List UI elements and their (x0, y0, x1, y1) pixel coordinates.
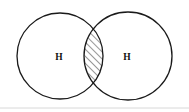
left-set-label: H (55, 52, 63, 62)
venn-diagram-figure: H H (0, 0, 189, 112)
right-set-label: H (123, 52, 131, 62)
venn-diagram-canvas: H H (0, 0, 189, 112)
